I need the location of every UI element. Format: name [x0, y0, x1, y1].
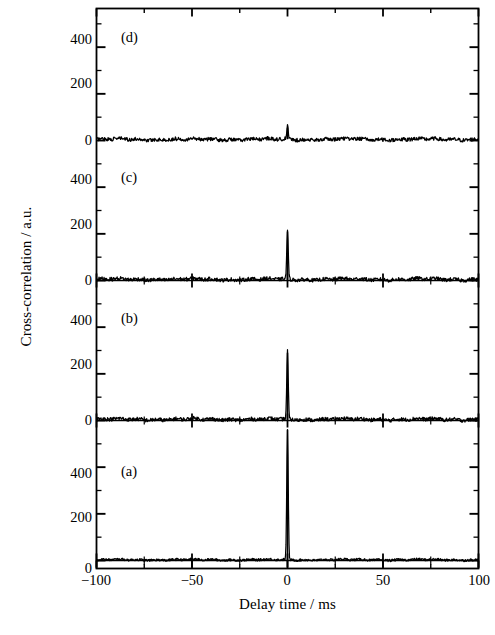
x-axis-label: Delay time / ms [96, 596, 479, 613]
x-tick-label: 50 [353, 573, 413, 588]
y-tick-label: 200 [44, 76, 92, 91]
figure-container: Cross-correlation / a.u. Delay time / ms… [0, 0, 495, 635]
y-axis-label: Cross-correlation / a.u. [18, 147, 35, 407]
panel-label-b: (b) [121, 311, 138, 326]
y-tick-label: 200 [44, 217, 92, 232]
x-tick-label: 0 [257, 573, 317, 588]
panel-label-d: (d) [121, 30, 138, 45]
y-tick-label: 400 [44, 466, 92, 481]
x-tick-label: −100 [66, 573, 126, 588]
x-tick-label: −50 [162, 573, 222, 588]
y-tick-label: 400 [44, 32, 92, 47]
x-tick-label: 100 [449, 573, 495, 588]
y-tick-label: 400 [44, 172, 92, 187]
y-tick-label: 0 [44, 413, 92, 428]
y-tick-label: 200 [44, 510, 92, 525]
y-tick-label: 200 [44, 357, 92, 372]
y-tick-label: 0 [44, 133, 92, 148]
panel-label-c: (c) [121, 170, 137, 185]
panel-label-a: (a) [121, 464, 137, 479]
y-tick-label: 0 [44, 273, 92, 288]
y-tick-label: 400 [44, 313, 92, 328]
